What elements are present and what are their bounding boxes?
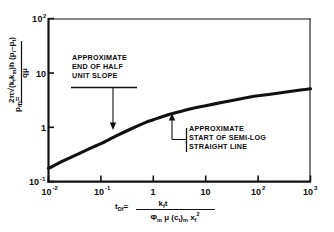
y-label-denominator: qμ [20, 68, 29, 78]
annot1-line2: END OF HALF [72, 62, 123, 71]
y-tick-text: 1 [32, 14, 37, 24]
annot1-line1: APPROXIMATE [72, 53, 127, 62]
x-tick-text: 10 [251, 187, 261, 197]
x-tick-text: 10 [94, 187, 104, 197]
y-tick-text: 1 [41, 123, 46, 133]
chart-figure: 1 0 2 10 1 10 -1 10 -2 10 -1 [0, 0, 334, 232]
x-tick-text: 10 [201, 187, 211, 197]
annot2-line1: APPROXIMATE [189, 124, 244, 133]
x-tick-text: 10 [303, 187, 313, 197]
y-tick-label-10: 10 [36, 69, 46, 79]
x-tick-label-10: 10 [201, 187, 211, 197]
y-tick-exp: -1 [40, 176, 46, 182]
x-tick-exp: -2 [53, 185, 59, 191]
y-tick-text-zero: 0 [38, 14, 43, 24]
y-label-numerator: 2π√(kfkm)h (pi–pf) [7, 37, 17, 103]
annot1-line3: UNIT SLOPE [72, 71, 118, 80]
y-tick-label-1: 1 [41, 123, 46, 133]
x-tick-text: 1 [151, 187, 156, 197]
log-log-chart: 1 0 2 10 1 10 -1 10 -2 10 -1 [0, 0, 334, 232]
annot2-line2: START OF SEMI-LOG [189, 133, 266, 142]
annot2-line3: STRAIGHT LINE [189, 142, 247, 151]
x-tick-exp: -1 [105, 185, 111, 191]
y-tick-text: 10 [29, 177, 39, 187]
x-tick-text: 10 [42, 187, 52, 197]
x-tick-label-1: 1 [151, 187, 156, 197]
y-tick-text: 10 [36, 69, 46, 79]
